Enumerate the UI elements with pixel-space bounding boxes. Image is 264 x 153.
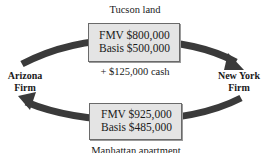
bottom-asset-box: FMV $925,000 Basis $485,000 — [89, 103, 182, 140]
top-asset-fmv: FMV $800,000 — [99, 29, 179, 42]
top-asset-basis: Basis $500,000 — [99, 42, 179, 55]
top-asset-caption: Tucson land — [105, 4, 165, 15]
cash-boot-label: + $125,000 cash — [95, 66, 175, 77]
arizona-firm-line1: Arizona — [0, 70, 50, 82]
bottom-asset-caption: Manhattan apartment — [86, 145, 186, 153]
top-asset-box: FMV $800,000 Basis $500,000 — [88, 23, 180, 62]
new-york-firm-line1: New York — [214, 70, 264, 82]
bottom-asset-basis: Basis $485,000 — [101, 121, 181, 134]
new-york-firm-line2: Firm — [214, 82, 264, 94]
arizona-firm-line2: Firm — [0, 82, 50, 94]
new-york-firm-label: New York Firm — [214, 70, 264, 94]
bottom-asset-fmv: FMV $925,000 — [101, 108, 181, 121]
arizona-firm-label: Arizona Firm — [0, 70, 50, 94]
